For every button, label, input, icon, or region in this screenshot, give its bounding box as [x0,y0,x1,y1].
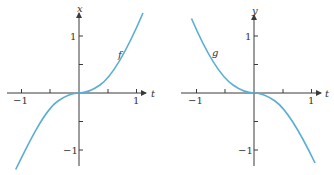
xtick-label-1: 1 [308,95,314,106]
xtick-label-neg1: −1 [188,95,203,106]
xtick-label-1: 1 [133,95,139,106]
ytick-label-neg1: −1 [63,145,78,156]
ytick-label-1: 1 [245,31,251,42]
curve-label-g: g [212,47,218,58]
x-axis-label: t [151,88,156,99]
ytick-label-neg1: −1 [238,145,253,156]
chart-f: −1 1 1 −1 x t f [7,3,156,170]
y-axis-label: x [77,3,83,14]
chart-g: −1 1 1 −1 y t g [181,5,330,166]
xtick-label-neg1: −1 [13,95,28,106]
y-axis-label: y [251,5,258,16]
x-axis-label: t [325,88,330,99]
curve-g [192,19,316,164]
figure: −1 1 1 −1 x t f −1 1 1 −1 y t g [0,0,334,175]
ytick-label-1: 1 [70,31,76,42]
